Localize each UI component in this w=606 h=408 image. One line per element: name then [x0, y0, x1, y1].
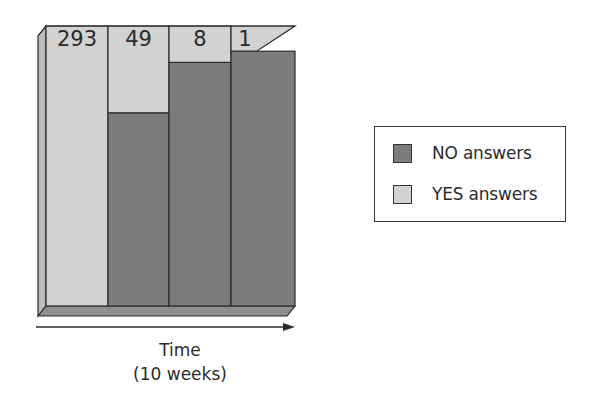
- legend-label-yes: YES answers: [432, 184, 537, 204]
- x-axis-label: Time: [100, 340, 260, 360]
- legend-swatch-no: [393, 144, 412, 163]
- bottom-depth-face: [38, 306, 295, 316]
- bar-no-2: [108, 113, 169, 306]
- bar-yes-1: [46, 26, 108, 306]
- legend-swatch-yes: [393, 185, 412, 204]
- legend: NO answers YES answers: [374, 126, 566, 222]
- column-label-3: 8: [193, 27, 206, 51]
- time-axis-arrowhead: [283, 323, 295, 331]
- column-label-2: 49: [125, 27, 152, 51]
- column-label-1: 293: [57, 27, 97, 51]
- legend-label-no: NO answers: [432, 143, 532, 163]
- left-depth-face: [38, 26, 46, 316]
- legend-item-no: NO answers: [393, 141, 532, 165]
- bar-no-3: [169, 62, 231, 306]
- column-label-4: 1: [238, 27, 251, 51]
- bar-no-4: [231, 51, 295, 306]
- bars-group: [38, 26, 295, 306]
- legend-item-yes: YES answers: [393, 182, 537, 206]
- x-axis-sublabel: (10 weeks): [100, 364, 260, 384]
